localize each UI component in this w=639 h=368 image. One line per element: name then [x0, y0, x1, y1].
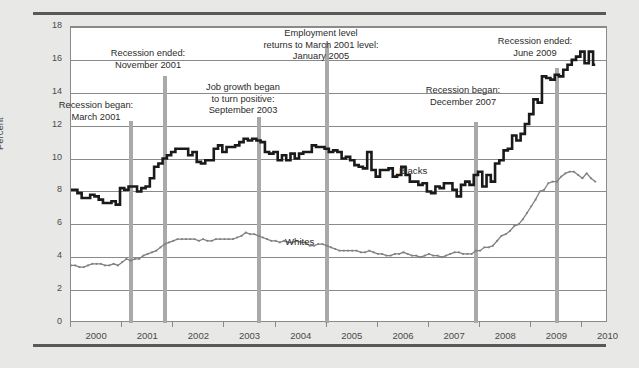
series-marker [415, 255, 417, 257]
series-marker [113, 263, 115, 265]
annotation-line: to turn positive: [168, 94, 318, 106]
series-marker [172, 240, 174, 242]
annotation-employment-returns-2005: Employment level returns to March 2001 l… [226, 28, 416, 63]
series-marker [266, 238, 268, 240]
series-marker [134, 258, 136, 260]
series-marker [91, 263, 93, 265]
series-marker [147, 253, 149, 255]
series-marker [181, 238, 183, 240]
series-marker [83, 266, 85, 268]
series-marker [317, 243, 319, 245]
series-marker [582, 177, 584, 179]
series-marker [428, 253, 430, 255]
series-marker [334, 248, 336, 250]
series-marker [108, 265, 110, 267]
series-marker [130, 260, 132, 262]
series-marker [215, 238, 217, 240]
annotation-job-growth-2003: Job growth began to turn positive: Septe… [168, 82, 318, 117]
y-tick-label: 0 [38, 316, 62, 326]
series-marker [594, 181, 596, 183]
series-marker [275, 240, 277, 242]
y-tick-label: 16 [38, 53, 62, 63]
x-tick [70, 322, 71, 327]
series-marker [445, 255, 447, 257]
series-marker [437, 255, 439, 257]
series-marker [509, 230, 511, 232]
y-tick-label: 14 [38, 86, 62, 96]
annotation-recession-ended-2001: Recession ended: November 2001 [68, 48, 228, 71]
series-marker [569, 171, 571, 173]
series-marker [228, 238, 230, 240]
annotation-line: Recession ended: [68, 48, 228, 60]
series-marker [360, 251, 362, 253]
series-marker [501, 235, 503, 237]
series-marker [398, 253, 400, 255]
series-marker [104, 265, 106, 267]
series-marker [518, 223, 520, 225]
series-marker [232, 238, 234, 240]
series-marker [539, 191, 541, 193]
series-marker [224, 238, 226, 240]
series-marker [347, 250, 349, 252]
series-marker [565, 172, 567, 174]
series-lines [71, 27, 608, 323]
series-marker [373, 251, 375, 253]
series-marker [411, 255, 413, 257]
series-marker [364, 251, 366, 253]
series-marker [198, 240, 200, 242]
series-marker [207, 240, 209, 242]
series-marker [236, 237, 238, 239]
x-tick-label: 2003 [225, 330, 275, 341]
series-marker [496, 240, 498, 242]
series-marker [394, 253, 396, 255]
series-marker [420, 256, 422, 258]
x-tick [428, 322, 429, 327]
x-tick-label: 2009 [531, 330, 581, 341]
series-marker [262, 237, 264, 239]
series-marker [351, 250, 353, 252]
series-marker [526, 212, 528, 214]
x-tick [377, 322, 378, 327]
series-marker [125, 258, 127, 260]
y-tick-label: 2 [38, 283, 62, 293]
series-marker [241, 235, 243, 237]
series-marker [100, 263, 102, 265]
series-marker [530, 205, 532, 207]
series-marker [249, 233, 251, 235]
series-marker [164, 243, 166, 245]
series-marker [466, 253, 468, 255]
series-marker [143, 255, 145, 257]
annotation-line: Job growth began [168, 82, 318, 94]
y-tick-label: 18 [38, 20, 62, 30]
series-marker [441, 256, 443, 258]
series-marker [368, 250, 370, 252]
x-tick [121, 322, 122, 327]
annotation-line: January 2005 [226, 51, 416, 63]
annotation-line: September 2003 [168, 105, 318, 117]
series-marker [258, 235, 260, 237]
annotation-recession-began-2001: Recession began: March 2001 [36, 100, 156, 123]
y-tick-label: 10 [38, 152, 62, 162]
series-marker [96, 263, 98, 265]
series-marker [552, 181, 554, 183]
series-marker [160, 246, 162, 248]
series-marker [194, 238, 196, 240]
x-tick [275, 322, 276, 327]
plot-wrapper: Percent 024681012141618 2000200120022003… [0, 0, 639, 368]
series-marker [211, 240, 213, 242]
series-marker [245, 232, 247, 234]
series-marker [390, 255, 392, 257]
series-marker [471, 253, 473, 255]
series-marker [513, 225, 515, 227]
annotation-line: March 2001 [36, 112, 156, 124]
series-marker [543, 189, 545, 191]
series-marker [488, 246, 490, 248]
annotation-recession-began-2007: Recession began: December 2007 [398, 85, 528, 108]
annotation-recession-ended-2009: Recession ended: June 2009 [470, 36, 600, 59]
x-tick [172, 322, 173, 327]
series-marker [117, 265, 119, 267]
series-marker [492, 245, 494, 247]
series-marker [547, 182, 549, 184]
series-marker [339, 250, 341, 252]
series-marker [449, 253, 451, 255]
